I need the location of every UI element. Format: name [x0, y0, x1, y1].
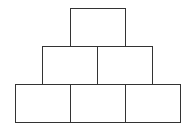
pyramid-box-row3-col3	[125, 84, 181, 123]
pyramid-box-row2-col1	[42, 46, 98, 85]
pyramid-box-row3-col1	[15, 84, 71, 123]
pyramid-box-row1-col1	[70, 8, 126, 48]
pyramid-box-row3-col2	[70, 84, 126, 123]
pyramid-box-row2-col2	[97, 46, 153, 85]
